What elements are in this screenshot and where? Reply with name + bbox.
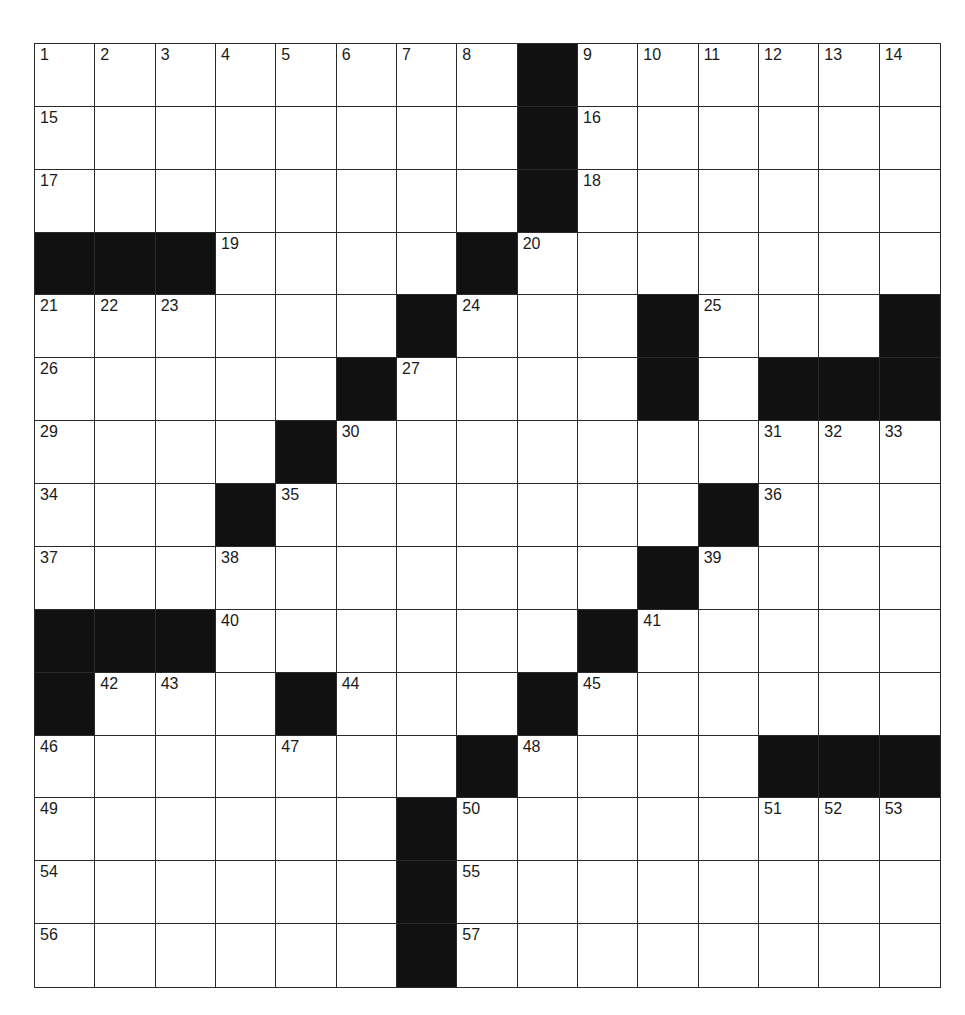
grid-cell[interactable]: 37 [35,547,95,610]
grid-cell[interactable] [337,924,397,987]
grid-cell[interactable]: 32 [819,421,879,484]
grid-cell[interactable]: 20 [518,233,578,296]
grid-cell[interactable] [880,484,940,547]
grid-cell[interactable] [880,170,940,233]
grid-cell[interactable] [759,107,819,170]
grid-cell[interactable]: 55 [457,861,517,924]
grid-cell[interactable] [156,421,216,484]
grid-cell[interactable] [156,798,216,861]
grid-cell[interactable] [819,861,879,924]
grid-cell[interactable]: 25 [699,295,759,358]
grid-cell[interactable] [819,233,879,296]
grid-cell[interactable] [699,736,759,799]
grid-cell[interactable] [397,610,457,673]
grid-cell[interactable]: 24 [457,295,517,358]
grid-cell[interactable] [337,233,397,296]
grid-cell[interactable] [337,170,397,233]
grid-cell[interactable]: 27 [397,358,457,421]
grid-cell[interactable] [880,673,940,736]
grid-cell[interactable] [276,610,336,673]
grid-cell[interactable] [457,107,517,170]
grid-cell[interactable]: 38 [216,547,276,610]
grid-cell[interactable] [759,861,819,924]
grid-cell[interactable]: 52 [819,798,879,861]
grid-cell[interactable] [337,798,397,861]
grid-cell[interactable] [276,924,336,987]
grid-cell[interactable] [518,924,578,987]
grid-cell[interactable] [578,798,638,861]
grid-cell[interactable]: 40 [216,610,276,673]
grid-cell[interactable]: 57 [457,924,517,987]
grid-cell[interactable] [156,107,216,170]
grid-cell[interactable] [216,736,276,799]
grid-cell[interactable] [156,861,216,924]
grid-cell[interactable] [95,421,155,484]
grid-cell[interactable]: 16 [578,107,638,170]
grid-cell[interactable]: 23 [156,295,216,358]
grid-cell[interactable] [759,924,819,987]
grid-cell[interactable] [337,107,397,170]
grid-cell[interactable] [819,484,879,547]
grid-cell[interactable] [276,358,336,421]
grid-cell[interactable] [880,233,940,296]
grid-cell[interactable] [638,484,698,547]
grid-cell[interactable] [457,421,517,484]
grid-cell[interactable] [216,107,276,170]
grid-cell[interactable]: 29 [35,421,95,484]
grid-cell[interactable]: 10 [638,44,698,107]
grid-cell[interactable] [397,421,457,484]
grid-cell[interactable] [397,107,457,170]
grid-cell[interactable] [457,673,517,736]
grid-cell[interactable]: 50 [457,798,517,861]
grid-cell[interactable] [578,484,638,547]
grid-cell[interactable] [819,924,879,987]
grid-cell[interactable]: 51 [759,798,819,861]
grid-cell[interactable]: 11 [699,44,759,107]
grid-cell[interactable] [156,736,216,799]
grid-cell[interactable] [638,861,698,924]
grid-cell[interactable] [457,547,517,610]
grid-cell[interactable] [518,861,578,924]
grid-cell[interactable]: 45 [578,673,638,736]
grid-cell[interactable]: 18 [578,170,638,233]
grid-cell[interactable] [638,924,698,987]
grid-cell[interactable] [156,547,216,610]
grid-cell[interactable] [216,421,276,484]
grid-cell[interactable]: 21 [35,295,95,358]
grid-cell[interactable] [518,798,578,861]
grid-cell[interactable] [156,484,216,547]
grid-cell[interactable]: 36 [759,484,819,547]
grid-cell[interactable]: 31 [759,421,819,484]
grid-cell[interactable] [95,484,155,547]
grid-cell[interactable]: 9 [578,44,638,107]
grid-cell[interactable]: 43 [156,673,216,736]
grid-cell[interactable] [638,421,698,484]
grid-cell[interactable]: 8 [457,44,517,107]
grid-cell[interactable] [216,798,276,861]
grid-cell[interactable] [880,107,940,170]
grid-cell[interactable] [759,673,819,736]
grid-cell[interactable] [337,295,397,358]
grid-cell[interactable] [95,861,155,924]
grid-cell[interactable]: 42 [95,673,155,736]
grid-cell[interactable] [819,610,879,673]
grid-cell[interactable] [216,170,276,233]
grid-cell[interactable] [699,924,759,987]
grid-cell[interactable] [457,610,517,673]
grid-cell[interactable] [518,547,578,610]
grid-cell[interactable] [578,421,638,484]
grid-cell[interactable]: 35 [276,484,336,547]
grid-cell[interactable] [578,924,638,987]
grid-cell[interactable] [518,295,578,358]
grid-cell[interactable] [578,233,638,296]
grid-cell[interactable] [518,421,578,484]
grid-cell[interactable] [337,861,397,924]
grid-cell[interactable] [578,295,638,358]
grid-cell[interactable] [699,233,759,296]
grid-cell[interactable]: 5 [276,44,336,107]
grid-cell[interactable] [699,798,759,861]
grid-cell[interactable] [276,295,336,358]
grid-cell[interactable]: 6 [337,44,397,107]
grid-cell[interactable] [276,170,336,233]
grid-cell[interactable]: 56 [35,924,95,987]
